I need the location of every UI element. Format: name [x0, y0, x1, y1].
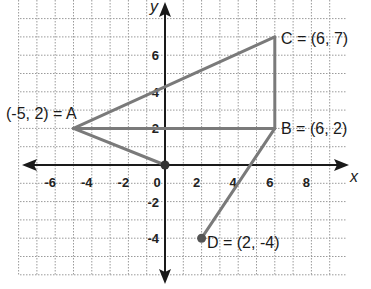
coordinate-plane-figure: x y -6-4-202468246-2-4 (-5, 2) = A B = (…: [0, 0, 371, 289]
x-tick-label: -4: [81, 175, 93, 190]
coordinate-plane: x y -6-4-202468246-2-4 (-5, 2) = A B = (…: [0, 0, 371, 289]
y-tick-label: -2: [147, 195, 159, 210]
point-label-c: C = (6, 7): [281, 30, 348, 47]
x-tick-label: -2: [118, 175, 130, 190]
x-tick-label: 8: [303, 175, 310, 190]
point-label-a: (-5, 2) = A: [6, 105, 77, 122]
segments: [74, 37, 275, 238]
y-tick-label: 6: [152, 48, 159, 63]
point-labels: (-5, 2) = A B = (6, 2) C = (6, 7) D = (2…: [6, 30, 348, 251]
segment-ac: [74, 37, 275, 128]
x-tick-label: 2: [193, 175, 200, 190]
x-tick-label: -6: [44, 175, 56, 190]
y-tick-label: -4: [147, 231, 159, 246]
point-label-b: B = (6, 2): [281, 120, 347, 137]
point-label-d: D = (2, -4): [207, 234, 279, 251]
point-d: [197, 234, 206, 243]
x-axis-label: x: [349, 168, 359, 185]
x-tick-label: 6: [266, 175, 273, 190]
y-axis-label: y: [149, 0, 159, 15]
x-tick-label: 0: [153, 175, 160, 190]
point-origin: [161, 161, 170, 170]
